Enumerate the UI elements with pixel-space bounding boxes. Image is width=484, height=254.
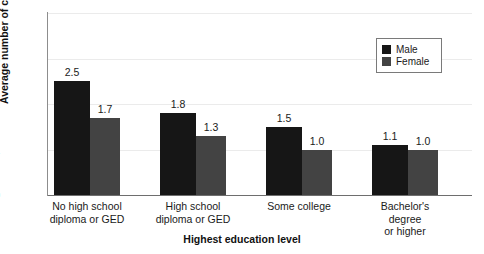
bar-female: [408, 150, 438, 196]
bar-male: [54, 81, 90, 195]
bar-male: [372, 145, 408, 195]
bar-value-label: 1.7: [98, 103, 113, 115]
legend: Male Female: [376, 38, 442, 73]
bar-female: [302, 150, 332, 196]
legend-label-female: Female: [396, 56, 429, 67]
x-axis-line: [48, 195, 472, 196]
bar-value-label: 1.0: [416, 135, 431, 147]
gridline: [48, 13, 472, 14]
legend-swatch-female-icon: [382, 57, 391, 66]
bar-value-label: 1.1: [383, 130, 398, 142]
bar-value-label: 1.0: [310, 135, 325, 147]
legend-swatch-male-icon: [382, 45, 391, 54]
x-axis-category-label: Bachelor's degree or higher: [366, 200, 445, 238]
legend-label-male: Male: [396, 44, 418, 55]
x-axis-title: Highest education level: [0, 233, 484, 245]
x-axis-category-label: No high school diploma or GED: [50, 200, 125, 225]
bar-male: [266, 127, 302, 195]
legend-item: Male: [382, 44, 436, 55]
x-axis-category-label: Some college: [267, 200, 331, 213]
bar-chart: 01234 Average number of children 2.51.71…: [0, 0, 484, 254]
bar-value-label: 2.5: [65, 66, 80, 78]
bar-female: [90, 118, 120, 195]
bar-value-label: 1.8: [171, 98, 186, 110]
y-axis-line: [47, 12, 48, 196]
y-axis-title: Average number of children: [0, 0, 10, 104]
bar-female: [196, 136, 226, 195]
legend-item: Female: [382, 56, 436, 67]
bar-value-label: 1.3: [204, 121, 219, 133]
bar-value-label: 1.5: [277, 112, 292, 124]
bar-male: [160, 113, 196, 195]
x-axis-category-label: High school diploma or GED: [156, 200, 231, 225]
